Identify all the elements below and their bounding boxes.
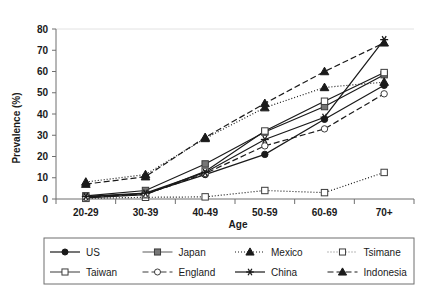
y-tick-label: 40: [37, 109, 49, 120]
prevalence-by-age-line-chart: 01020304050607080 20-2930-3940-4950-5960…: [0, 0, 421, 291]
x-axis: 20-2930-3940-4950-5960-6970+: [56, 199, 414, 218]
data-point-marker-open-square: [202, 194, 208, 200]
data-point-marker-filled-triangle: [320, 67, 329, 75]
data-point-marker-open-circle: [262, 143, 268, 149]
legend-label-taiwan: Taiwan: [86, 267, 117, 278]
x-tick-label: 40-49: [192, 207, 218, 218]
data-point-marker-open-square: [62, 269, 68, 275]
data-point-marker-open-square: [321, 189, 327, 195]
x-tick-label: 20-29: [73, 207, 99, 218]
x-tick-label: 30-39: [133, 207, 159, 218]
x-tick-label: 60-69: [312, 207, 338, 218]
data-point-marker-filled-square: [202, 161, 208, 167]
data-point-marker-open-square: [262, 187, 268, 193]
series-taiwan: [83, 69, 388, 201]
series-japan: [83, 71, 388, 199]
data-point-marker-open-square: [339, 249, 345, 255]
y-tick-label: 70: [37, 45, 49, 56]
legend-label-england: England: [179, 267, 216, 278]
series-line-us: [86, 85, 384, 197]
y-tick-label: 0: [42, 194, 48, 205]
data-point-marker-filled-triangle: [261, 99, 270, 107]
data-point-marker-open-square: [381, 69, 387, 75]
legend-label-indonesia: Indonesia: [364, 267, 408, 278]
series-line-england: [86, 94, 384, 197]
x-axis-title: Age: [229, 219, 248, 230]
data-point-marker-asterisk: [261, 136, 269, 143]
data-point-marker-filled-circle: [62, 249, 68, 255]
data-point-marker-open-square: [321, 98, 327, 104]
y-tick-label: 20: [37, 151, 49, 162]
series-line-japan: [86, 75, 384, 196]
legend-label-china: China: [271, 267, 298, 278]
data-point-marker-filled-triangle: [201, 133, 210, 141]
y-axis-title: Prevalence (%): [11, 92, 22, 163]
data-point-marker-open-circle: [154, 269, 160, 275]
y-tick-label: 10: [37, 172, 49, 183]
data-point-marker-filled-square: [154, 249, 160, 255]
y-tick-label: 60: [37, 66, 49, 77]
y-tick-label: 50: [37, 87, 49, 98]
data-point-marker-open-square: [262, 128, 268, 134]
data-point-marker-open-square: [381, 169, 387, 175]
x-tick-label: 70+: [376, 207, 393, 218]
data-point-marker-filled-circle: [262, 151, 268, 157]
legend-label-tsimane: Tsimane: [364, 247, 402, 258]
x-tick-label: 50-59: [252, 207, 278, 218]
y-tick-label: 30: [37, 130, 49, 141]
data-point-marker-open-circle: [321, 126, 327, 132]
chart-figure: 01020304050607080 20-2930-3940-4950-5960…: [0, 0, 421, 291]
series-line-indonesia: [86, 43, 384, 184]
legend-label-japan: Japan: [179, 247, 206, 258]
data-point-marker-filled-triangle: [320, 83, 329, 91]
y-axis: 01020304050607080: [37, 24, 56, 205]
data-point-marker-open-circle: [381, 91, 387, 97]
y-tick-label: 80: [37, 24, 49, 35]
legend-label-mexico: Mexico: [271, 247, 303, 258]
series-tsimane: [83, 169, 388, 201]
legend-label-us: US: [86, 247, 100, 258]
data-point-marker-filled-triangle: [380, 78, 389, 86]
series-england: [83, 91, 388, 201]
data-series-group: [82, 36, 389, 201]
series-us: [83, 82, 388, 200]
series-line-china: [86, 40, 384, 197]
chart-legend: USJapanMexicoTsimaneTaiwanEnglandChinaIn…: [44, 238, 414, 284]
